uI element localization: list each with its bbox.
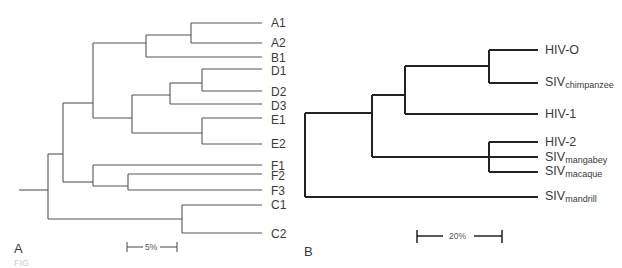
leaf-label-siv-mandrill: SIVmandrill — [545, 190, 597, 206]
leaf-label-siv-macaque: SIVmacaque — [545, 165, 602, 181]
leaf-label-d3: D3 — [271, 100, 286, 112]
leaf-label-hiv-2: HIV-2 — [545, 136, 576, 149]
leaf-label-b1: B1 — [271, 52, 286, 64]
panel-label-b: B — [304, 244, 313, 259]
leaf-label-e2: E2 — [271, 138, 286, 150]
leaf-label-a2: A2 — [271, 37, 286, 49]
leaf-label-d2: D2 — [271, 86, 286, 98]
leaf-label-c2: C2 — [271, 228, 286, 240]
leaf-label-d1: D1 — [271, 65, 286, 77]
leaf-label-hiv-1: HIV-1 — [545, 108, 576, 121]
panel-label-a: A — [14, 241, 23, 256]
leaf-label-f3: F3 — [271, 185, 285, 197]
leaf-label-siv-chimpanzee: SIVchimpanzee — [545, 76, 614, 92]
leaf-label-f2: F2 — [271, 170, 285, 182]
scale-bar-label-b: 20% — [447, 231, 468, 241]
leaf-label-a1: A1 — [271, 17, 286, 29]
leaf-label-hiv-o: HIV-O — [545, 44, 579, 57]
phylogenetic-tree-a — [0, 0, 622, 268]
leaf-label-c1: C1 — [271, 199, 286, 211]
leaf-label-e1: E1 — [271, 114, 286, 126]
caption-fragment: FIG — [14, 258, 29, 268]
scale-bar-label-a: 5% — [143, 242, 159, 252]
